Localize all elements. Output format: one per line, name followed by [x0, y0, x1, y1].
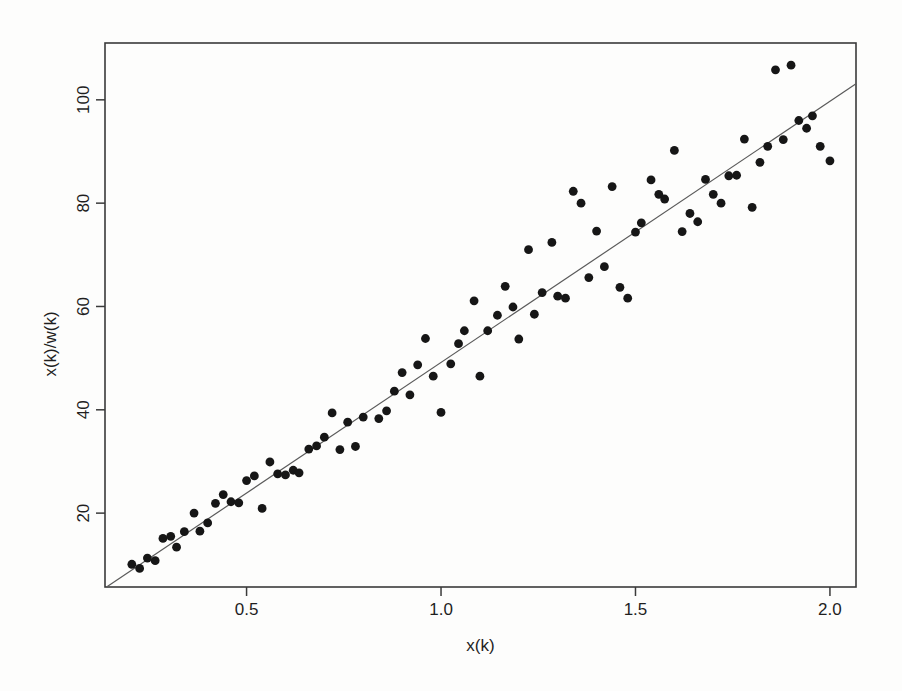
- data-point: [600, 262, 609, 271]
- data-point: [631, 228, 640, 237]
- data-point: [172, 543, 181, 552]
- data-point: [678, 227, 687, 236]
- data-point: [732, 171, 741, 180]
- data-point: [406, 390, 415, 399]
- x-tick-label: 2.0: [818, 600, 842, 619]
- data-point: [135, 564, 144, 573]
- data-point: [514, 335, 523, 344]
- data-point: [524, 245, 533, 254]
- data-point: [616, 283, 625, 292]
- y-axis-title: x(k)/w(k): [41, 311, 60, 376]
- data-point: [756, 158, 765, 167]
- data-point: [660, 195, 669, 204]
- data-point: [351, 442, 360, 451]
- data-point: [421, 334, 430, 343]
- data-point: [476, 372, 485, 381]
- y-tick-label: 20: [74, 504, 93, 523]
- data-point: [320, 433, 329, 442]
- data-point: [794, 116, 803, 125]
- data-point: [374, 414, 383, 423]
- data-point: [359, 413, 368, 422]
- data-point: [460, 326, 469, 335]
- x-tick-label: 1.5: [624, 600, 648, 619]
- data-point: [530, 310, 539, 319]
- data-point: [547, 238, 556, 247]
- data-point: [295, 468, 304, 477]
- data-point: [166, 532, 175, 541]
- data-point: [740, 135, 749, 144]
- data-point: [584, 273, 593, 282]
- x-tick-label: 0.5: [235, 600, 259, 619]
- data-point: [413, 360, 422, 369]
- data-point: [258, 504, 267, 513]
- data-point: [693, 217, 702, 226]
- data-point: [227, 497, 236, 506]
- data-point: [159, 534, 168, 543]
- data-point: [647, 176, 656, 185]
- y-tick-label: 100: [74, 86, 93, 114]
- data-point: [538, 288, 547, 297]
- data-point: [211, 499, 220, 508]
- data-point: [190, 509, 199, 518]
- x-axis-title: x(k): [466, 636, 494, 655]
- data-point: [509, 303, 518, 312]
- data-point: [250, 472, 259, 481]
- data-point: [219, 490, 228, 499]
- data-point: [779, 135, 788, 144]
- data-point: [234, 498, 243, 507]
- data-point: [724, 171, 733, 180]
- data-point: [826, 156, 835, 165]
- y-tick-label: 60: [74, 297, 93, 316]
- y-tick-label: 40: [74, 400, 93, 419]
- data-point: [787, 61, 796, 70]
- data-point: [709, 190, 718, 199]
- data-point: [203, 519, 212, 528]
- data-point: [151, 556, 160, 565]
- data-point: [304, 445, 313, 454]
- data-point: [195, 527, 204, 536]
- data-point: [561, 294, 570, 303]
- data-point: [802, 124, 811, 133]
- data-point: [592, 227, 601, 236]
- data-point: [553, 292, 562, 301]
- data-point: [670, 146, 679, 155]
- data-point: [808, 111, 817, 120]
- y-tick-label: 80: [74, 194, 93, 213]
- data-point: [623, 294, 632, 303]
- data-point: [748, 203, 757, 212]
- data-point: [637, 218, 646, 227]
- data-point: [127, 560, 136, 569]
- data-point: [273, 469, 282, 478]
- data-point: [608, 182, 617, 191]
- data-point: [328, 408, 337, 417]
- data-point: [483, 326, 492, 335]
- data-point: [454, 339, 463, 348]
- data-point: [437, 408, 446, 417]
- data-point: [382, 406, 391, 415]
- data-point: [763, 142, 772, 151]
- data-point: [577, 199, 586, 208]
- data-point: [281, 470, 290, 479]
- data-point: [343, 418, 352, 427]
- data-point: [312, 442, 321, 451]
- data-point: [771, 65, 780, 74]
- scatter-plot: 0.51.01.52.020406080100x(k)x(k)/w(k): [0, 0, 902, 691]
- data-point: [701, 175, 710, 184]
- data-point: [180, 527, 189, 536]
- data-point: [569, 187, 578, 196]
- data-point: [390, 387, 399, 396]
- data-point: [398, 368, 407, 377]
- data-point: [336, 445, 345, 454]
- data-point: [493, 311, 502, 320]
- data-point: [717, 199, 726, 208]
- data-point: [501, 282, 510, 291]
- x-tick-label: 1.0: [429, 600, 453, 619]
- data-point: [816, 142, 825, 151]
- data-point: [242, 476, 251, 485]
- data-point: [143, 554, 152, 563]
- data-point: [470, 296, 479, 305]
- data-point: [266, 458, 275, 467]
- scatter-plot-figure: 0.51.01.52.020406080100x(k)x(k)/w(k): [0, 0, 902, 691]
- data-point: [429, 372, 438, 381]
- data-point: [686, 209, 695, 218]
